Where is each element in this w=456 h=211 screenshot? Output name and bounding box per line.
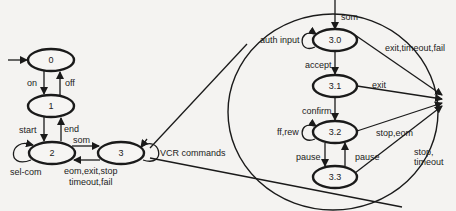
state-3-2-label: 3.2: [329, 127, 342, 137]
label-ff-rew: ff,rew: [277, 127, 299, 137]
state-3-label: 3: [118, 148, 123, 158]
state-3-3-label: 3.3: [329, 172, 342, 182]
state-2-label: 2: [49, 148, 54, 158]
zoom-line-top: [150, 44, 247, 148]
label-vcr-commands: VCR commands: [160, 148, 226, 158]
label-off: off: [65, 78, 75, 88]
state-0-label: 0: [48, 55, 53, 65]
label-sel-com: sel-com: [10, 167, 42, 177]
edge-stop-eom: [357, 103, 442, 131]
label-som-inner: som: [341, 12, 358, 22]
label-return-line2: timeout,fail: [69, 177, 113, 187]
label-end: end: [64, 124, 79, 134]
label-som: som: [73, 135, 90, 145]
state-3-0-label: 3.0: [329, 35, 342, 45]
label-return-line1: eom,exit,stop: [64, 166, 118, 176]
label-pause-down: pause: [296, 152, 321, 162]
label-auth-input: auth input: [260, 35, 300, 45]
label-stop-line1: stop,: [414, 147, 434, 157]
label-exit-timeout-fail: exit,timeout,fail: [385, 43, 445, 53]
label-exit: exit: [372, 80, 387, 90]
state-1-label: 1: [48, 101, 53, 111]
label-on: on: [27, 78, 37, 88]
state-diagram: 0 1 2 3 on off start end sel-com som eom…: [0, 0, 456, 211]
state-3-1-label: 3.1: [329, 81, 342, 91]
label-start: start: [19, 125, 37, 135]
label-stop-line2: timeout: [414, 157, 444, 167]
edge-exit: [357, 86, 442, 99]
label-accept: accept: [305, 60, 332, 70]
label-confirm: confirm: [302, 106, 332, 116]
